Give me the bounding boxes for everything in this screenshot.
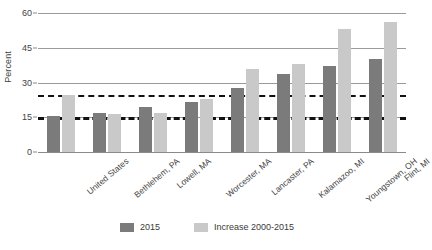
y-tick-label-60: 60	[22, 9, 32, 18]
legend-swatch	[194, 223, 208, 232]
x-axis-label: Lancaster, PA	[269, 156, 315, 197]
y-tick-label-30: 30	[22, 78, 32, 87]
bar-cluster	[277, 13, 305, 152]
y-tick-label-0: 0	[27, 148, 32, 157]
bar-cluster	[139, 13, 167, 152]
bar	[108, 114, 121, 152]
legend-label: 2015	[140, 222, 160, 232]
bar	[338, 29, 351, 152]
bar	[47, 116, 60, 152]
legend-item: 2015	[120, 222, 160, 232]
bar-cluster	[369, 13, 397, 152]
bar	[93, 113, 106, 152]
x-axis-labels: United StatesBethlehem, PALowell, MAWorc…	[38, 152, 406, 212]
bar	[369, 59, 382, 152]
y-tick-mark-0	[33, 152, 37, 153]
y-tick-mark-60	[33, 13, 37, 14]
bar	[185, 102, 198, 152]
y-axis-title: Percent	[3, 37, 13, 97]
y-tick-label-45: 45	[22, 43, 32, 52]
x-axis-label: Lowell, MA	[175, 156, 213, 190]
y-tick-label-15: 15	[22, 113, 32, 122]
bar	[277, 74, 290, 152]
plot-area: 015304560	[38, 13, 406, 152]
bar	[246, 69, 259, 152]
x-axis-label: Bethlehem, PA	[132, 156, 181, 200]
bar-cluster	[323, 13, 351, 152]
bar	[139, 107, 152, 152]
bar	[200, 99, 213, 152]
bar-cluster	[47, 13, 75, 152]
legend-swatch	[120, 223, 134, 232]
bar	[154, 113, 167, 152]
bar-cluster	[185, 13, 213, 152]
x-axis-label: United States	[85, 156, 131, 196]
bar	[384, 22, 397, 152]
legend-item: Increase 2000-2015	[194, 222, 294, 232]
bar-cluster	[93, 13, 121, 152]
bar	[292, 64, 305, 152]
legend-label: Increase 2000-2015	[214, 222, 294, 232]
bar	[231, 88, 244, 152]
chart-legend: 2015Increase 2000-2015	[0, 222, 414, 232]
x-axis-label: Worcester, MA	[224, 156, 273, 199]
y-tick-mark-45	[33, 47, 37, 48]
y-tick-mark-15	[33, 117, 37, 118]
x-axis-label: Kalamazoo, MI	[316, 156, 366, 200]
bar-cluster	[231, 13, 259, 152]
y-tick-mark-30	[33, 82, 37, 83]
bar	[323, 66, 336, 152]
bar	[62, 95, 75, 152]
bars-layer	[38, 13, 406, 152]
